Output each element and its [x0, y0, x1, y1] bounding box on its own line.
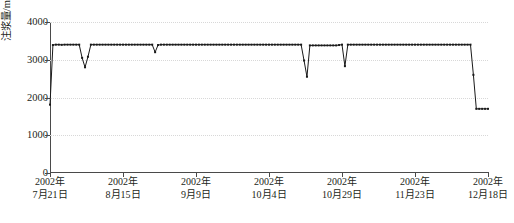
x-axis-tick-label-year: 2002年 [106, 176, 141, 189]
data-point-marker [93, 44, 95, 46]
x-axis-tick-labels: 2002年7月21日2002年8月15日2002年9月9日2002年10月4日2… [50, 176, 488, 216]
data-point-marker [446, 44, 448, 46]
data-point-marker [367, 44, 369, 46]
data-point-marker [458, 44, 460, 46]
data-point-marker [332, 44, 334, 46]
x-axis-tick-label-year: 2002年 [252, 176, 287, 189]
data-point-marker [344, 65, 346, 67]
data-point-marker [204, 44, 206, 46]
x-axis-tick-label-year: 2002年 [395, 176, 435, 189]
data-point-marker [58, 44, 60, 46]
data-point-marker [464, 44, 466, 46]
data-point-marker [151, 44, 153, 46]
data-point-marker [382, 44, 384, 46]
data-point-marker [131, 44, 133, 46]
data-point-marker [361, 44, 363, 46]
data-point-marker [472, 74, 474, 76]
data-series [50, 22, 488, 173]
data-point-marker [443, 44, 445, 46]
data-point-marker [113, 44, 115, 46]
data-point-marker [198, 44, 200, 46]
data-point-marker [84, 66, 86, 68]
data-point-marker [467, 44, 469, 46]
data-point-marker [253, 44, 255, 46]
data-point-marker [218, 44, 220, 46]
data-point-marker [429, 44, 431, 46]
data-point-marker [172, 44, 174, 46]
data-point-marker [271, 44, 273, 46]
data-point-marker [107, 44, 109, 46]
data-point-marker [201, 44, 203, 46]
data-point-marker [391, 44, 393, 46]
data-point-marker [405, 44, 407, 46]
data-point-marker [478, 108, 480, 110]
data-point-marker [359, 44, 361, 46]
data-point-marker [318, 44, 320, 46]
data-point-marker [277, 44, 279, 46]
data-point-marker [350, 44, 352, 46]
data-point-marker [137, 44, 139, 46]
data-point-marker [259, 44, 261, 46]
data-point-marker [239, 44, 241, 46]
data-point-marker [75, 44, 77, 46]
data-point-marker [280, 44, 282, 46]
data-point-marker [140, 44, 142, 46]
x-axis-tick-label-date: 9月9日 [181, 189, 211, 202]
y-axis-tick-labels: 01000200030004000 [0, 22, 48, 173]
data-point-marker [449, 44, 451, 46]
data-point-marker [376, 44, 378, 46]
data-point-marker [163, 44, 165, 46]
data-point-marker [192, 44, 194, 46]
data-point-marker [248, 44, 250, 46]
data-point-marker [487, 108, 489, 110]
data-point-marker [329, 44, 331, 46]
data-point-marker [148, 44, 150, 46]
data-point-marker [440, 44, 442, 46]
data-point-marker [469, 44, 471, 46]
data-point-marker [215, 44, 217, 46]
data-point-marker [461, 44, 463, 46]
data-point-marker [452, 44, 454, 46]
data-point-marker [423, 44, 425, 46]
x-axis-tick-label-year: 2002年 [322, 176, 362, 189]
data-point-marker [183, 44, 185, 46]
data-point-marker [49, 104, 51, 106]
data-point-marker [175, 44, 177, 46]
x-axis-tick-label-date: 12月18日 [468, 189, 508, 202]
data-point-marker [341, 44, 343, 46]
chart-figure: 注浆量/m³ 01000200030004000 2002年7月21日2002年… [0, 0, 514, 223]
data-point-marker [186, 44, 188, 46]
data-point-marker [99, 44, 101, 46]
data-point-marker [402, 44, 404, 46]
x-axis-tick-label: 2002年7月21日 [33, 176, 68, 201]
data-point-marker [189, 44, 191, 46]
data-point-marker [67, 44, 69, 46]
data-point-marker [288, 44, 290, 46]
data-point-marker [230, 44, 232, 46]
data-point-marker [370, 44, 372, 46]
data-point-marker [210, 44, 212, 46]
x-axis-tick-label-date: 8月15日 [106, 189, 141, 202]
data-point-marker [364, 44, 366, 46]
x-axis-tick-label: 2002年9月9日 [181, 176, 211, 201]
data-point-marker [484, 108, 486, 110]
data-point-marker [245, 44, 247, 46]
data-point-marker [414, 44, 416, 46]
data-point-marker [379, 44, 381, 46]
x-axis-tick-label-year: 2002年 [33, 176, 68, 189]
data-point-marker [399, 44, 401, 46]
data-point-marker [145, 44, 147, 46]
data-point-marker [116, 44, 118, 46]
data-point-marker [134, 44, 136, 46]
data-point-marker [294, 44, 296, 46]
x-axis-tick-label: 2002年11月23日 [395, 176, 435, 201]
data-point-marker [411, 44, 413, 46]
data-point-marker [396, 44, 398, 46]
data-point-marker [300, 44, 302, 46]
data-point-marker [180, 44, 182, 46]
data-point-marker [303, 60, 305, 62]
x-axis-tick-label-year: 2002年 [468, 176, 508, 189]
data-point-marker [356, 44, 358, 46]
data-point-marker [309, 44, 311, 46]
x-axis-tick-label-date: 7月21日 [33, 189, 68, 202]
